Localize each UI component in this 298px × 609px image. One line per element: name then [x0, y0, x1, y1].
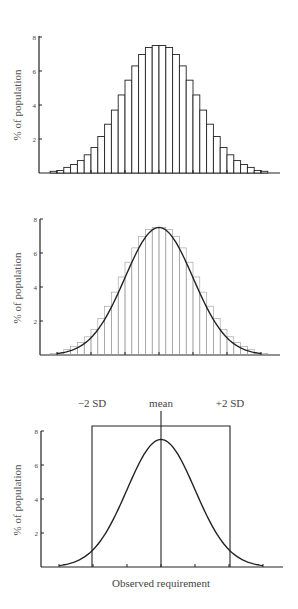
- histogram-bar: [234, 161, 241, 173]
- histogram-bars: [50, 46, 268, 174]
- histogram-bar: [105, 124, 112, 173]
- histogram-bar: [220, 148, 227, 174]
- histogram-bar: [132, 248, 139, 355]
- y-tick-label: 2: [34, 318, 38, 326]
- histogram-bar: [159, 46, 166, 174]
- histogram-bar: [247, 167, 254, 173]
- histogram-bar: [118, 277, 125, 355]
- histogram-bar: [241, 165, 248, 174]
- histogram-bar: [98, 136, 105, 173]
- histogram-bar: [125, 80, 132, 173]
- y-tick-label: 2: [33, 136, 37, 144]
- histogram-bar: [111, 110, 118, 173]
- histogram-bars-faint: [50, 228, 268, 356]
- histogram-bar: [145, 48, 152, 173]
- histogram-bar: [71, 165, 78, 174]
- y-axis-label: % of population: [11, 464, 23, 535]
- y-tick-label: 4: [35, 496, 39, 504]
- histogram-bar: [186, 80, 193, 173]
- histogram-bar: [152, 228, 159, 356]
- histogram-bar: [166, 48, 173, 173]
- y-tick-label: 8: [34, 216, 38, 224]
- y-tick-label: 6: [33, 68, 37, 76]
- y-ticks: 2468: [33, 34, 43, 144]
- panel-histogram-with-curve: % of population 2468: [11, 216, 280, 356]
- histogram-bar: [254, 170, 261, 173]
- histogram-bar: [179, 66, 186, 173]
- plus-2sd-label: +2 SD: [216, 397, 245, 409]
- histogram-bar: [152, 46, 159, 174]
- histogram-bar: [77, 161, 84, 173]
- histogram-bar: [179, 248, 186, 355]
- histogram-bar: [50, 171, 57, 173]
- y-axis-label: % of population: [11, 69, 23, 140]
- histogram-bar: [193, 277, 200, 355]
- histogram-bar: [84, 155, 91, 173]
- y-tick-label: 6: [34, 250, 38, 258]
- histogram-bar: [132, 66, 139, 173]
- panel-histogram: % of population 2468: [11, 34, 280, 174]
- histogram-bar: [193, 95, 200, 173]
- histogram-bar: [261, 171, 268, 173]
- panel-normal-curve-sd: −2 SD mean +2 SD % of population 2468 Ob…: [11, 397, 283, 589]
- y-ticks: 2468: [34, 216, 44, 326]
- figure: % of population 2468 % of population 246…: [0, 0, 298, 609]
- y-tick-label: 4: [33, 102, 37, 110]
- histogram-bar: [213, 136, 220, 173]
- y-axis-label: % of population: [11, 252, 23, 323]
- histogram-bar: [50, 353, 57, 355]
- histogram-bar: [166, 230, 173, 355]
- histogram-bar: [261, 353, 268, 355]
- y-tick-label: 8: [35, 428, 39, 436]
- histogram-bar: [173, 55, 180, 173]
- y-ticks: 2468: [35, 428, 45, 538]
- y-tick-label: 4: [34, 284, 38, 292]
- histogram-bar: [57, 170, 64, 173]
- histogram-bar: [159, 228, 166, 356]
- histogram-bar: [64, 167, 71, 173]
- histogram-bar: [118, 95, 125, 173]
- y-tick-label: 6: [35, 462, 39, 470]
- histogram-bar: [139, 237, 146, 355]
- y-tick-label: 8: [33, 34, 37, 42]
- histogram-bar: [139, 55, 146, 173]
- histogram-bar: [207, 124, 214, 173]
- mean-label: mean: [149, 397, 173, 409]
- y-tick-label: 2: [35, 530, 39, 538]
- minus-2sd-label: −2 SD: [78, 397, 107, 409]
- histogram-bar: [173, 237, 180, 355]
- x-axis-label: Observed requirement: [112, 577, 210, 589]
- histogram-bar: [91, 148, 98, 174]
- histogram-bar: [145, 230, 152, 355]
- histogram-bar: [227, 155, 234, 173]
- histogram-bar: [200, 110, 207, 173]
